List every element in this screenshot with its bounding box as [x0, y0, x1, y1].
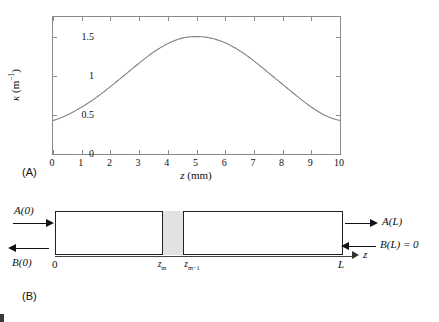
x-tick-top	[110, 17, 111, 21]
x-tick-top	[283, 17, 284, 21]
label-origin: 0	[52, 258, 58, 270]
x-tick	[139, 150, 140, 154]
x-tick	[197, 150, 198, 154]
panel-b-diagram: A(0) B(0) A(L) B(L) = 0 z 0 L zm zm−1 (B…	[0, 190, 439, 318]
x-tick-label: 0	[50, 157, 55, 168]
label-z-axis: z	[363, 248, 367, 260]
y-tick	[53, 115, 57, 116]
y-tick	[53, 76, 57, 77]
label-zm: zm	[158, 259, 167, 271]
label-zm-sub: m	[161, 264, 166, 271]
x-tick-top	[53, 17, 54, 21]
y-tick	[53, 154, 57, 155]
x-tick-top	[82, 17, 83, 21]
x-tick-label: 5	[193, 157, 198, 168]
x-tick	[254, 150, 255, 154]
arrow-al-line	[345, 223, 372, 224]
label-b0: B(0)	[12, 256, 32, 268]
label-al: A(L)	[382, 215, 402, 227]
label-length: L	[338, 258, 344, 270]
x-tick	[225, 150, 226, 154]
x-tick	[110, 150, 111, 154]
y-tick-right	[336, 76, 340, 77]
x-tick-label: 9	[308, 157, 313, 168]
arrow-a0-head	[46, 219, 54, 227]
z-axis-line	[55, 256, 353, 257]
x-tick-label: 4	[164, 157, 169, 168]
y-tick-right	[336, 115, 340, 116]
x-tick	[82, 150, 83, 154]
arrow-b0-head	[8, 244, 16, 252]
z-axis-arrowhead	[352, 251, 359, 259]
x-tick-top	[139, 17, 140, 21]
label-zm1-sub: m−1	[188, 264, 200, 271]
x-tick-top	[197, 17, 198, 21]
x-tick	[168, 150, 169, 154]
x-axis-title: z (mm)	[180, 169, 211, 181]
arrow-a0-line	[13, 223, 47, 224]
panel-b-label: (B)	[22, 290, 37, 302]
x-tick-label: 3	[136, 157, 141, 168]
x-tick-top	[168, 17, 169, 21]
arrow-bl-line	[348, 246, 376, 247]
panel-a-label: (A)	[22, 166, 37, 178]
label-bl: B(L) = 0	[380, 238, 419, 250]
y-tick-label: 0	[89, 148, 94, 159]
x-tick	[311, 150, 312, 154]
x-tick	[340, 150, 341, 154]
x-tick-label: 8	[279, 157, 284, 168]
y-tick	[53, 37, 57, 38]
page-edge-artifact	[0, 314, 4, 322]
x-tick-label: 6	[222, 157, 227, 168]
arrow-al-head	[370, 219, 378, 227]
x-tick-top	[225, 17, 226, 21]
waveguide-slab-segment	[162, 211, 184, 255]
x-tick-label: 1	[78, 157, 83, 168]
label-zm1: zm−1	[184, 259, 200, 271]
x-tick-label: 7	[250, 157, 255, 168]
plot-frame	[52, 16, 341, 155]
y-tick-label: 1.5	[82, 30, 95, 41]
y-tick-right	[336, 37, 340, 38]
label-a0: A(0)	[14, 204, 34, 216]
arrow-b0-line	[15, 248, 49, 249]
waveguide-body	[55, 211, 343, 255]
arrow-bl-head	[341, 242, 349, 250]
y-axis-title: κ (m−1)	[7, 69, 21, 101]
y-tick-label: 1	[89, 69, 94, 80]
y-tick-label: 0.5	[82, 108, 95, 119]
coupling-curve	[53, 17, 340, 154]
x-tick-label: 2	[107, 157, 112, 168]
y-tick-right	[336, 154, 340, 155]
x-tick-top	[311, 17, 312, 21]
x-tick-top	[254, 17, 255, 21]
x-tick-label: 10	[334, 157, 344, 168]
x-tick	[283, 150, 284, 154]
panel-a-plot: 012345678910 00.511.5 z (mm) κ (m−1) (A)	[0, 0, 439, 190]
x-tick-top	[340, 17, 341, 21]
